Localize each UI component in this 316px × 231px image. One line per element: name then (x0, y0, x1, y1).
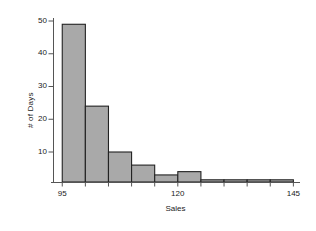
x-tick-label: 95 (47, 189, 77, 198)
bars-group (62, 24, 293, 182)
y-tick-label: 50 (25, 16, 47, 25)
y-ticks-group (49, 21, 54, 152)
y-axis-label: # of Days (26, 92, 35, 128)
y-tick-label: 10 (25, 147, 47, 156)
histogram-figure: 102030405095120145Sales# of Days (0, 0, 316, 231)
x-tick-label: 120 (163, 189, 193, 198)
y-tick-label: 40 (25, 48, 47, 57)
histogram-bar (224, 180, 247, 182)
histogram-bar (132, 165, 155, 182)
histogram-bar (178, 172, 201, 182)
histogram-bar (270, 180, 293, 182)
histogram-bar (155, 175, 178, 182)
x-tick-label: 145 (278, 189, 308, 198)
histogram-bar (201, 180, 224, 182)
x-ticks-group (62, 183, 293, 187)
histogram-bar (108, 152, 131, 182)
histogram-bar (85, 106, 108, 182)
x-axis-label: Sales (136, 204, 216, 213)
histogram-bar (62, 24, 85, 182)
histogram-bar (247, 180, 270, 182)
y-tick-label: 30 (25, 81, 47, 90)
